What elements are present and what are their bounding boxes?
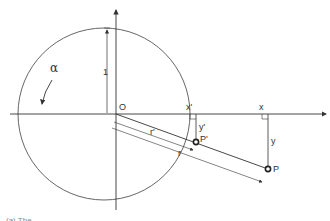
point-p-prime [193,139,198,144]
y-label: y [271,136,276,146]
point-p [265,166,270,171]
r-label: r [178,148,181,158]
x-label: x [259,102,264,112]
unit-radius-label: 1 [103,67,108,77]
projection-diagram: 1 α O r' r x' x y' y P' P (a) The ... [0,0,330,221]
p-prime-label: P' [200,134,208,144]
angle-label: α [50,61,58,75]
y-prime-label: y' [199,122,206,132]
p-label: P [273,164,279,174]
origin-label: O [119,102,126,112]
x-prime-label: x' [186,102,193,112]
figure-caption: (a) The ... [6,216,41,221]
rotation-arrow-icon [42,80,52,104]
r-prime-label: r' [150,127,155,137]
ray-o-p [116,114,268,169]
